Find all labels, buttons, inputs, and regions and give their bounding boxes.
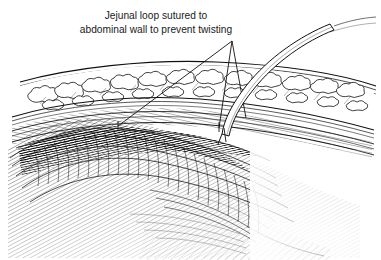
- illustration-canvas: Jejunal loop sutured to abdominal wall t…: [0, 0, 381, 260]
- caption-line-2: abdominal wall to prevent twisting: [80, 24, 233, 35]
- medical-illustration-figure: Jejunal loop sutured to abdominal wall t…: [0, 0, 381, 260]
- caption-line-1: Jejunal loop sutured to: [105, 10, 208, 21]
